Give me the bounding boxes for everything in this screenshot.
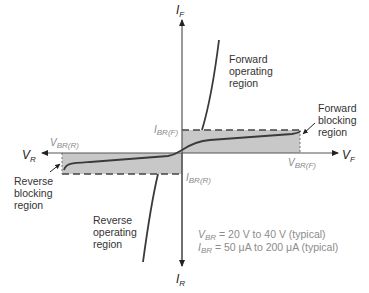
vbr-r-label: VBR(R) [50, 137, 79, 150]
vr-axis-label: VR [22, 148, 36, 164]
forward-operating-label: Forward operating region [229, 53, 276, 89]
forward-blocking-pointer [303, 123, 315, 134]
reverse-blocking-pointer [50, 164, 60, 172]
forward-operating-curve [202, 40, 219, 130]
reverse-operating-curve [143, 174, 158, 262]
if-axis-label: IF [176, 3, 185, 19]
ibr-f-label: IBR(F) [154, 124, 178, 137]
vf-axis-label: VF [342, 148, 356, 164]
reverse-blocking-label: Reverse blocking region [14, 175, 56, 211]
diagram-canvas: IF IR VF VR IBR(F) IBR(R) VBR(F) VBR(R) … [0, 0, 369, 293]
ibr-r-label: IBR(R) [186, 172, 211, 185]
vbr-note: VBR = 20 V to 40 V (typical) [198, 228, 326, 242]
forward-blocking-label: Forward blocking region [318, 102, 359, 138]
ir-axis-label: IR [176, 272, 185, 288]
ibr-note: IBR = 50 μA to 200 μA (typical) [198, 241, 338, 255]
vbr-f-label: VBR(F) [288, 157, 316, 170]
reverse-operating-label: Reverse operating region [93, 214, 140, 250]
